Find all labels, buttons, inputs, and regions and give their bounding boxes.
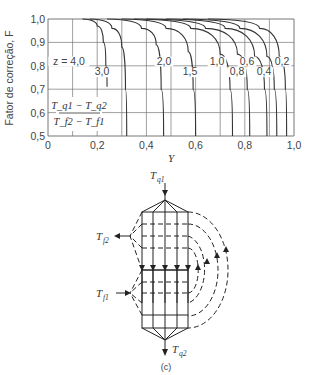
fraction-numerator: T_q1 − T_q2 xyxy=(51,100,107,111)
label-tf2-sub: f2 xyxy=(103,236,109,245)
x-tick-label: 0,6 xyxy=(188,139,203,151)
x-tick-label: 0,4 xyxy=(139,139,154,151)
curve-06 xyxy=(166,19,267,136)
y-tick-label: 0,5 xyxy=(30,130,45,142)
label-tf1: T xyxy=(96,287,103,299)
curve-20 xyxy=(107,19,164,136)
curve-label: 1,0 xyxy=(210,55,225,67)
curve-08 xyxy=(146,19,249,136)
label-tf2: T xyxy=(96,230,103,242)
y-tick-label: 0,6 xyxy=(30,107,45,119)
label-tq2-sub: q2 xyxy=(179,349,187,358)
curve-15 xyxy=(122,19,196,136)
diagram-caption: (c) xyxy=(161,362,172,372)
curve-label: 1,5 xyxy=(183,65,198,77)
fraction-annotation: T_q1 − T_q2 T_f2 − T_f1 xyxy=(51,97,107,131)
curve-label: 3,0 xyxy=(95,65,110,77)
x-tick-label: 0,8 xyxy=(237,139,252,151)
y-tick-label: 1,0 xyxy=(30,13,45,25)
y-tick-label: 0,9 xyxy=(30,36,45,48)
label-tq1-sub: q1 xyxy=(157,175,165,184)
curve-label: z = 4,0 xyxy=(53,55,85,67)
label-tq2: T xyxy=(172,343,179,355)
correction-factor-chart: z = 4,03,02,01,51,00,80,60,40,2 00,20,40… xyxy=(0,0,311,375)
curve-label: 2,0 xyxy=(157,55,172,67)
y-tick-label: 0,8 xyxy=(30,60,45,72)
curve-label: 0,8 xyxy=(230,65,245,77)
x-tick-label: 0 xyxy=(45,139,51,151)
heat-exchanger-diagram xyxy=(114,183,229,356)
label-tf1-sub: f1 xyxy=(103,293,109,302)
curve-label: 0,6 xyxy=(240,55,255,67)
x-tick-label: 1,0 xyxy=(287,139,302,151)
curve-labels: z = 4,03,02,01,51,00,80,60,40,2 xyxy=(48,55,291,78)
x-tick-label: 0,2 xyxy=(90,139,105,151)
x-axis-label: Y xyxy=(168,152,176,164)
curve-label: 0,2 xyxy=(275,55,290,67)
y-axis-label: Fator de correção, F xyxy=(3,30,15,125)
y-tick-label: 0,7 xyxy=(30,83,45,95)
label-tq1: T xyxy=(150,169,157,181)
fraction-denominator: T_f2 − T_f1 xyxy=(54,116,105,127)
chart-curves xyxy=(82,19,286,136)
curve-label: 0,4 xyxy=(257,65,272,77)
